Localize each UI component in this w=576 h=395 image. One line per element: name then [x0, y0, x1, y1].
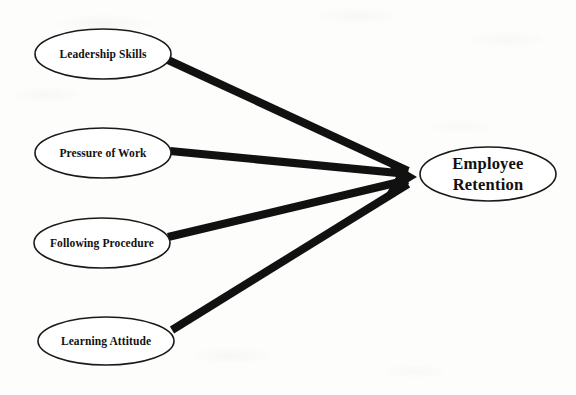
node-following-procedure[interactable]: Following Procedure [34, 218, 170, 268]
node-learning-attitude[interactable]: Learning Attitude [38, 317, 174, 365]
path-model-diagram: Leadership Skills Pressure of Work Follo… [0, 0, 576, 395]
node-employee-retention[interactable]: Employee Retention [420, 147, 556, 201]
diagram-canvas: Leadership Skills Pressure of Work Follo… [0, 0, 576, 395]
node-label-employee-retention-line2: Retention [453, 175, 524, 194]
node-label-learning-attitude: Learning Attitude [61, 335, 151, 348]
node-pressure-of-work[interactable]: Pressure of Work [35, 128, 171, 178]
node-label-leadership-skills: Leadership Skills [59, 48, 146, 61]
connector-lines [168, 60, 408, 330]
node-label-pressure-of-work: Pressure of Work [59, 147, 147, 159]
node-leadership-skills[interactable]: Leadership Skills [35, 29, 171, 79]
node-label-employee-retention-line1: Employee [452, 154, 523, 173]
node-label-following-procedure: Following Procedure [50, 237, 154, 250]
